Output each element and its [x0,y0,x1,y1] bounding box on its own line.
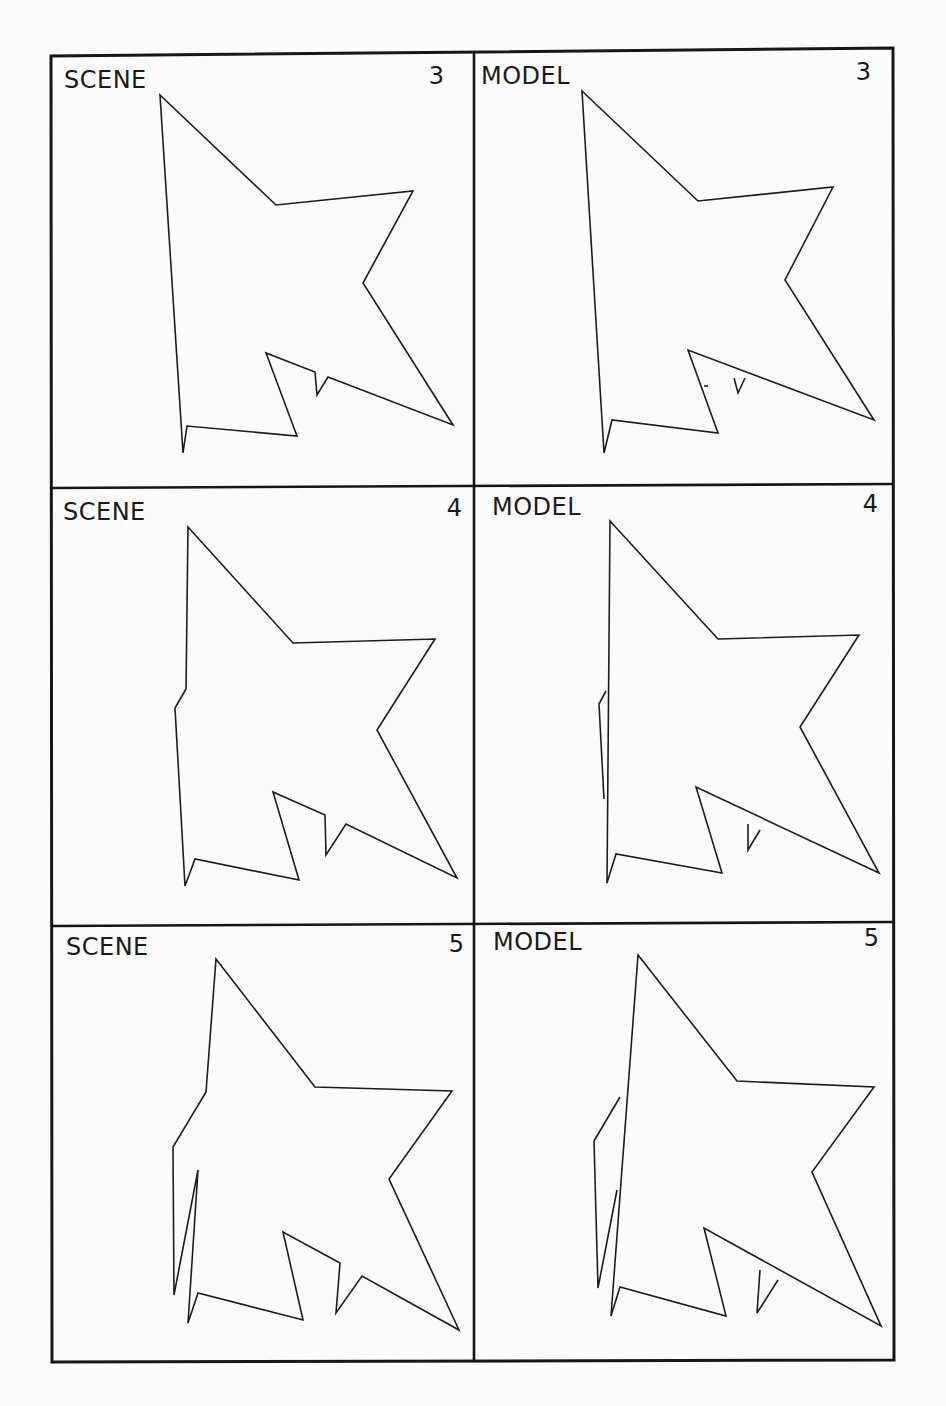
model-fragment-stroke [599,691,606,799]
panel-number: 3 [429,62,444,90]
model-fragments [704,378,745,393]
model-outline-shape [607,521,879,883]
panel-model-3: MODEL 3 [481,58,874,453]
model-fragment-stroke [748,824,760,850]
panel-number: 4 [863,490,878,518]
model-fragments [599,691,760,850]
model-fragment-stroke [757,1270,778,1313]
panel-number: 4 [447,494,462,522]
model-outline-shape [582,91,874,453]
scene-model-comparison-figure: SCENE 3 MODEL 3 SCENE 4 MODEL 4 SCENE 5 … [0,0,946,1406]
panel-scene-4: SCENE 4 [63,494,462,886]
panel-number: 5 [864,924,879,952]
row-divider-1 [51,484,894,488]
panel-scene-5: SCENE 5 [66,930,464,1330]
panel-label: SCENE [64,66,147,94]
model-fragments [594,1097,778,1313]
panel-model-5: MODEL 5 [493,924,881,1326]
scene-outline-shape [160,95,453,453]
scene-outline-shape [175,527,457,886]
panel-label: MODEL [481,62,570,90]
model-fragment-stroke [594,1097,620,1288]
model-fragment-stroke [734,378,745,393]
scene-outline-shape [173,959,459,1330]
model-outline-shape [611,955,881,1326]
panel-label: SCENE [63,498,146,526]
panel-scene-3: SCENE 3 [64,62,453,453]
panel-label: MODEL [492,493,581,521]
panel-number: 3 [856,58,871,86]
panel-label: MODEL [493,928,582,956]
panel-label: SCENE [66,933,149,961]
panel-number: 5 [449,930,464,958]
panel-model-4: MODEL 4 [492,490,879,883]
